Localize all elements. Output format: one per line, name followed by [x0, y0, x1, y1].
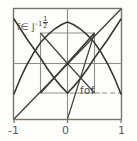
x-tick-label-zero: 0	[62, 125, 69, 137]
function-class-text: f∈ J	[17, 22, 35, 32]
x-tick-label-one: 1	[118, 125, 125, 137]
chord-upper-left	[41, 33, 68, 64]
composition-annotation: fof	[80, 85, 95, 96]
figure-container: -1 0 1 f∈ J-112 fof	[0, 0, 137, 141]
function-class-fraction: 12	[43, 16, 48, 29]
function-class-exponent: -1	[35, 20, 43, 28]
fraction-denominator: 2	[43, 23, 48, 29]
chord-long-right	[68, 33, 95, 119]
function-class-annotation: f∈ J-112	[17, 16, 48, 32]
x-tick-label-minus-one: -1	[8, 125, 19, 137]
